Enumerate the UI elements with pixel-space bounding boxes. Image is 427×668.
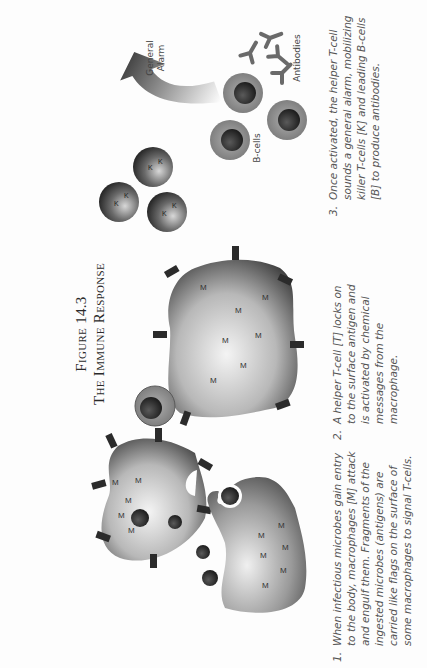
svg-text:M: M bbox=[258, 531, 265, 540]
killer-tcells: K K K K K K bbox=[99, 147, 187, 232]
antibodies-label: Antibodies bbox=[292, 33, 303, 83]
rotated-page: Figure 14.3 The Immune Response bbox=[0, 0, 427, 668]
general-alarm-arrow bbox=[113, 30, 222, 132]
svg-text:M: M bbox=[280, 566, 287, 575]
svg-text:K: K bbox=[158, 158, 163, 165]
svg-text:M: M bbox=[135, 476, 142, 485]
caption-panel-1: 1. When infectious microbes gain entry t… bbox=[330, 448, 414, 646]
svg-text:M: M bbox=[210, 376, 217, 385]
macrophage-with-helper-tcell: M M M M M M M bbox=[135, 246, 304, 426]
svg-text:M: M bbox=[128, 526, 135, 535]
svg-text:M: M bbox=[240, 361, 247, 370]
svg-text:M: M bbox=[235, 306, 242, 315]
svg-text:M: M bbox=[125, 496, 132, 505]
caption-number-2: 2. bbox=[330, 430, 344, 440]
svg-text:K: K bbox=[162, 210, 167, 217]
svg-text:M: M bbox=[112, 478, 119, 487]
caption-panel-3: 3. Once activated, the helper T-cell sou… bbox=[326, 2, 382, 200]
svg-text:K: K bbox=[172, 202, 177, 209]
b-cells-label: B-cells bbox=[252, 128, 263, 168]
macrophage-with-antigen-flags: M M M M M bbox=[91, 428, 213, 568]
svg-text:M: M bbox=[222, 336, 229, 345]
svg-text:M: M bbox=[255, 331, 262, 340]
macrophage-engulfing: M M M M M M bbox=[207, 477, 306, 613]
svg-text:M: M bbox=[278, 521, 285, 530]
svg-text:K: K bbox=[148, 164, 153, 171]
svg-text:M: M bbox=[260, 551, 267, 560]
svg-text:M: M bbox=[282, 543, 289, 552]
svg-text:K: K bbox=[114, 200, 119, 207]
svg-text:K: K bbox=[124, 192, 129, 199]
svg-text:M: M bbox=[118, 511, 125, 520]
svg-text:M: M bbox=[262, 581, 269, 590]
svg-text:M: M bbox=[262, 293, 269, 302]
general-alarm-label: General Alarm bbox=[145, 38, 167, 78]
helper-tcell bbox=[135, 386, 175, 426]
caption-number-1: 1. bbox=[330, 652, 344, 662]
caption-number-3: 3. bbox=[326, 206, 340, 216]
svg-text:M: M bbox=[200, 283, 207, 292]
caption-panel-2: 2. A helper T-cell [T] locks on to the s… bbox=[330, 274, 400, 424]
